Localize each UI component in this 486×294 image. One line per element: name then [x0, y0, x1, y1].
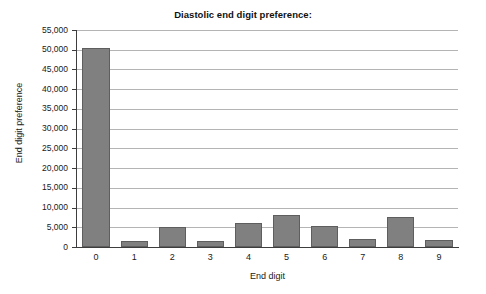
x-axis-tick-label: 3 — [195, 252, 225, 262]
y-axis-tick-label: 55,000 — [14, 26, 68, 35]
x-axis-tick-label: 1 — [119, 252, 149, 262]
bar — [197, 241, 224, 247]
x-axis-tick-label: 9 — [424, 252, 454, 262]
y-axis-tick-mark — [72, 109, 77, 110]
y-axis-tick-label: 45,000 — [14, 65, 68, 74]
bar — [273, 215, 300, 247]
gridline — [77, 30, 458, 31]
bar — [425, 240, 452, 247]
gridline — [77, 109, 458, 110]
y-axis-tick-mark — [72, 247, 77, 248]
gridline — [77, 89, 458, 90]
y-axis-tick-labels: 05,00010,00015,00020,00025,00030,00035,0… — [14, 0, 68, 294]
gridline — [77, 129, 458, 130]
gridline — [77, 148, 458, 149]
y-axis-tick-mark — [72, 30, 77, 31]
y-axis-tick-mark — [72, 148, 77, 149]
bar — [387, 217, 414, 247]
x-axis-tick-label: 4 — [233, 252, 263, 262]
y-axis-tick-label: 20,000 — [14, 164, 68, 173]
bar — [235, 223, 262, 247]
x-axis-tick-label: 2 — [157, 252, 187, 262]
x-axis-tick-label: 6 — [310, 252, 340, 262]
gridline — [77, 50, 458, 51]
bar — [349, 239, 376, 247]
plot-area — [77, 30, 458, 247]
y-axis-tick-label: 35,000 — [14, 104, 68, 113]
gridline — [77, 188, 458, 189]
bar — [159, 227, 186, 247]
y-axis-tick-label: 10,000 — [14, 203, 68, 212]
bar — [121, 241, 148, 247]
gridline — [77, 69, 458, 70]
y-axis-tick-label: 5,000 — [14, 223, 68, 232]
x-axis-tick-label: 7 — [348, 252, 378, 262]
x-axis-title: End digit — [77, 271, 458, 281]
y-axis-tick-label: 40,000 — [14, 85, 68, 94]
gridline — [77, 168, 458, 169]
x-axis-tick-label: 8 — [386, 252, 416, 262]
chart-figure: Diastolic end digit preference: End digi… — [0, 0, 486, 294]
y-axis-tick-mark — [72, 129, 77, 130]
x-axis-line — [76, 247, 459, 248]
y-axis-tick-mark — [72, 168, 77, 169]
y-axis-tick-label: 25,000 — [14, 144, 68, 153]
chart-title: Diastolic end digit preference: — [0, 9, 486, 20]
x-axis-tick-label: 0 — [81, 252, 111, 262]
y-axis-tick-label: 30,000 — [14, 124, 68, 133]
gridline — [77, 208, 458, 209]
y-axis-tick-mark — [72, 208, 77, 209]
y-axis-tick-label: 0 — [14, 243, 68, 252]
y-axis-tick-mark — [72, 188, 77, 189]
y-axis-tick-mark — [72, 227, 77, 228]
y-axis-tick-mark — [72, 69, 77, 70]
y-axis-tick-mark — [72, 50, 77, 51]
y-axis-tick-label: 15,000 — [14, 183, 68, 192]
y-axis-tick-mark — [72, 89, 77, 90]
bar — [82, 48, 109, 247]
y-axis-tick-label: 50,000 — [14, 45, 68, 54]
x-axis-tick-label: 5 — [272, 252, 302, 262]
bar — [311, 226, 338, 247]
